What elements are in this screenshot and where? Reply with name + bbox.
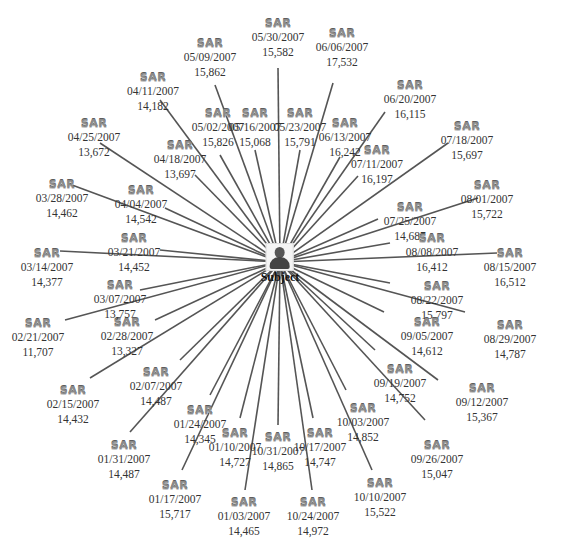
sar-amount: 15,697 [441, 148, 493, 163]
sar-date: 03/21/2007 [108, 245, 160, 260]
sar-icon: SAR [401, 317, 453, 329]
sar-node[interactable]: SAR09/05/200714,612 [401, 317, 453, 359]
sar-node[interactable]: SAR10/10/200715,522 [354, 478, 406, 520]
sar-icon: SAR [68, 118, 120, 130]
sar-date: 08/08/2007 [406, 245, 458, 260]
sar-date: 03/07/2007 [94, 292, 146, 307]
sar-node[interactable]: SAR03/14/200714,377 [21, 248, 73, 290]
sar-icon: SAR [47, 385, 99, 397]
sar-date: 04/25/2007 [68, 130, 120, 145]
sar-node[interactable]: SAR07/18/200715,697 [441, 121, 493, 163]
sar-amount: 14,487 [98, 467, 150, 482]
person-icon [266, 243, 294, 271]
sar-node[interactable]: SAR08/29/200714,787 [484, 320, 536, 362]
sar-node[interactable]: SAR08/08/200716,412 [406, 233, 458, 275]
sar-date: 10/24/2007 [287, 509, 339, 524]
sar-date: 02/28/2007 [101, 329, 153, 344]
sar-amount: 16,412 [406, 260, 458, 275]
sar-amount: 15,047 [411, 467, 463, 482]
sar-amount: 15,522 [354, 505, 406, 520]
sar-amount: 11,707 [12, 345, 64, 360]
sar-date: 09/12/2007 [456, 395, 508, 410]
sar-node[interactable]: SAR02/21/200711,707 [12, 318, 64, 360]
sar-amount: 15,722 [461, 207, 513, 222]
sar-date: 03/14/2007 [21, 260, 73, 275]
sar-node[interactable]: SAR09/26/200715,047 [411, 440, 463, 482]
sar-amount: 14,462 [36, 206, 88, 221]
sar-icon: SAR [21, 248, 73, 260]
link-line [278, 262, 280, 425]
sar-node[interactable]: SAR04/25/200713,672 [68, 118, 120, 160]
sar-amount: 14,452 [108, 260, 160, 275]
sar-node[interactable]: SAR03/21/200714,452 [108, 233, 160, 275]
sar-icon: SAR [130, 367, 182, 379]
sar-node[interactable]: SAR06/20/200716,115 [384, 80, 436, 122]
subject-label: Subject [261, 271, 300, 284]
sar-node[interactable]: SAR02/07/200714,487 [130, 367, 182, 409]
sar-node[interactable]: SAR01/03/200714,465 [218, 497, 270, 539]
link-line [72, 185, 280, 262]
sar-date: 01/31/2007 [98, 452, 150, 467]
sar-date: 10/10/2007 [354, 490, 406, 505]
sar-node[interactable]: SAR01/17/200715,717 [149, 480, 201, 522]
sar-node[interactable]: SAR05/30/200715,582 [252, 18, 304, 60]
sar-node[interactable]: SAR03/07/200713,757 [94, 280, 146, 322]
subject-node[interactable]: Subject [261, 243, 300, 284]
sar-node[interactable]: SAR09/12/200715,367 [456, 383, 508, 425]
sar-amount: 13,757 [94, 307, 146, 322]
sar-amount: 13,327 [101, 344, 153, 359]
sar-amount: 15,862 [184, 65, 236, 80]
sar-node[interactable]: SAR05/09/200715,862 [184, 38, 236, 80]
sar-icon: SAR [12, 318, 64, 330]
sar-amount: 14,465 [218, 524, 270, 539]
sar-icon: SAR [406, 233, 458, 245]
sar-icon: SAR [456, 383, 508, 395]
sar-date: 09/05/2007 [401, 329, 453, 344]
sar-node[interactable]: SAR01/24/200714,345 [174, 405, 226, 447]
sar-date: 09/26/2007 [411, 452, 463, 467]
sar-amount: 17,532 [316, 55, 368, 70]
sar-date: 07/18/2007 [441, 133, 493, 148]
sar-date: 02/21/2007 [12, 330, 64, 345]
sar-amount: 15,367 [456, 410, 508, 425]
sar-icon: SAR [384, 202, 436, 214]
sar-icon: SAR [484, 248, 536, 260]
sar-node[interactable]: SAR03/28/200714,462 [36, 179, 88, 221]
sar-amount: 14,542 [115, 212, 167, 227]
sar-amount: 14,377 [21, 275, 73, 290]
sar-date: 02/15/2007 [47, 397, 99, 412]
sar-node[interactable]: SAR01/31/200714,487 [98, 440, 150, 482]
sar-node[interactable]: SAR02/15/200714,432 [47, 385, 99, 427]
link-line [60, 251, 280, 262]
sar-date: 03/28/2007 [36, 191, 88, 206]
sar-icon: SAR [351, 145, 403, 157]
sar-icon: SAR [319, 118, 371, 130]
sar-node[interactable]: SAR07/11/200716,197 [351, 145, 403, 187]
sar-node[interactable]: SAR06/06/200717,532 [316, 28, 368, 70]
sar-amount: 15,582 [252, 45, 304, 60]
sar-node[interactable]: SAR09/19/200714,752 [374, 364, 426, 406]
sar-date: 01/24/2007 [174, 417, 226, 432]
sar-date: 05/09/2007 [184, 50, 236, 65]
sar-icon: SAR [484, 320, 536, 332]
sar-node[interactable]: SAR05/02/200715,826 [192, 108, 244, 150]
sar-amount: 15,717 [149, 507, 201, 522]
link-line [280, 262, 313, 418]
sar-date: 04/11/2007 [127, 84, 179, 99]
sar-date: 06/20/2007 [384, 92, 436, 107]
sar-icon: SAR [108, 233, 160, 245]
sar-icon: SAR [287, 497, 339, 509]
sar-node[interactable]: SAR04/04/200714,542 [115, 185, 167, 227]
sar-date: 01/17/2007 [149, 492, 201, 507]
sar-node[interactable]: SAR08/15/200716,512 [484, 248, 536, 290]
sar-icon: SAR [411, 440, 463, 452]
sar-node[interactable]: SAR02/28/200713,327 [101, 317, 153, 359]
sar-node[interactable]: SAR04/11/200714,182 [127, 72, 179, 114]
sar-date: 02/07/2007 [130, 379, 182, 394]
sar-amount: 14,612 [401, 344, 453, 359]
sar-date: 05/02/2007 [192, 120, 244, 135]
sar-node[interactable]: SAR10/24/200714,972 [287, 497, 339, 539]
sar-amount: 15,826 [192, 135, 244, 150]
sar-amount: 14,487 [130, 394, 182, 409]
sar-node[interactable]: SAR08/01/200715,722 [461, 180, 513, 222]
